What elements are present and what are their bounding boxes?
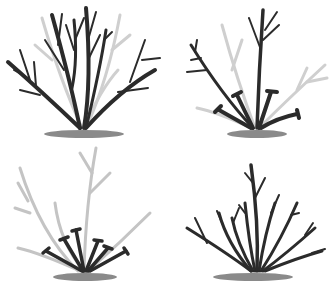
shrub-partial-prune-icon — [167, 0, 334, 143]
ground-mound — [213, 273, 293, 281]
shrub-renewed-icon — [167, 143, 334, 286]
ground-mound — [227, 130, 287, 138]
shrub-overgrown-icon — [0, 0, 167, 143]
panel-renewed-shrub — [167, 143, 334, 286]
ground-mound — [53, 273, 117, 281]
panel-overgrown-shrub — [0, 0, 167, 143]
ground-mound — [44, 130, 124, 138]
panel-partial-prune — [167, 0, 334, 143]
pruning-illustration — [0, 0, 334, 286]
panel-full-prune — [0, 143, 167, 286]
shrub-full-prune-icon — [0, 143, 167, 286]
